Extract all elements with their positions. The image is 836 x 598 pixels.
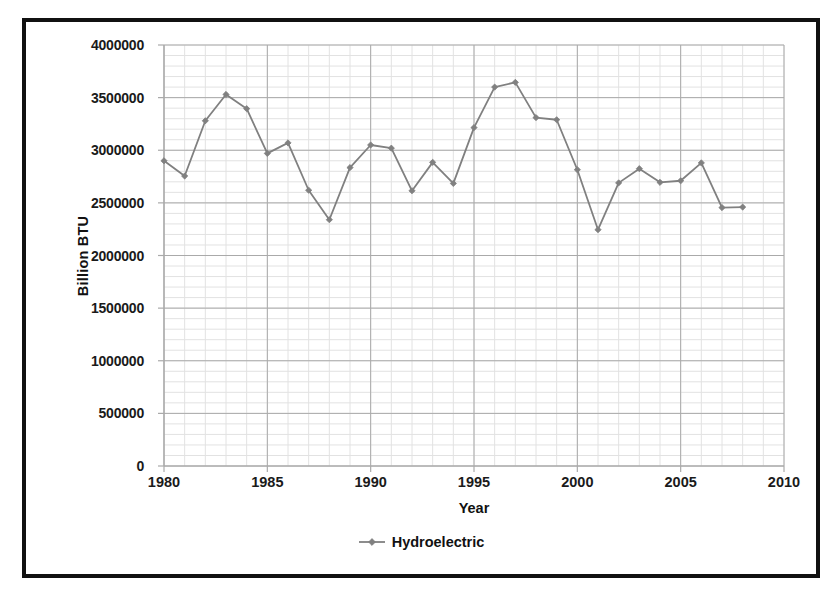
y-axis-tick-label: 1000000 <box>91 353 156 369</box>
chart-plot-wrapper: 0500000100000015000002000000250000030000… <box>26 22 816 574</box>
y-axis-tick-label: 3500000 <box>91 90 156 106</box>
chart-frame: 0500000100000015000002000000250000030000… <box>22 18 820 578</box>
x-axis-tick-label: 2005 <box>665 474 697 490</box>
x-axis-tick-labels: 1980198519901995200020052010 <box>164 474 784 496</box>
legend-marker-icon <box>358 536 386 548</box>
axis-lines <box>158 45 784 472</box>
y-axis-tick-label: 4000000 <box>91 37 156 53</box>
x-axis-tick-label: 1985 <box>251 474 283 490</box>
x-axis-tick-label: 2010 <box>768 474 800 490</box>
x-axis-tick-label: 1990 <box>355 474 387 490</box>
legend-label-hydroelectric: Hydroelectric <box>392 534 485 550</box>
y-axis-tick-label: 3000000 <box>91 142 156 158</box>
y-axis-tick-label: 1500000 <box>91 300 156 316</box>
y-axis-title: Billion BTU <box>75 161 91 351</box>
y-axis-tick-labels: 0500000100000015000002000000250000030000… <box>26 45 156 466</box>
y-axis-tick-label: 500000 <box>98 405 156 421</box>
plot-svg <box>164 45 784 466</box>
y-axis-tick-label: 2500000 <box>91 195 156 211</box>
plot-area <box>164 45 784 466</box>
y-axis-tick-label: 2000000 <box>91 248 156 264</box>
x-axis-tick-label: 1995 <box>458 474 490 490</box>
x-axis-title: Year <box>164 500 784 516</box>
chart-legend: Hydroelectric <box>26 534 816 550</box>
y-axis-tick-label: 0 <box>136 458 156 474</box>
y-axis-title-holder: Billion BTU <box>60 45 80 466</box>
x-axis-tick-label: 1980 <box>148 474 180 490</box>
x-axis-tick-label: 2000 <box>561 474 593 490</box>
